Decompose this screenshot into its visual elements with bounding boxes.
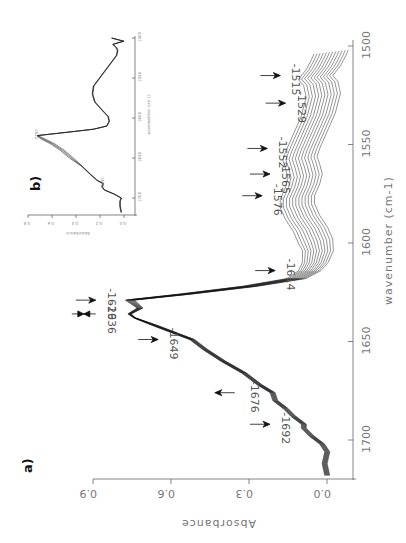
absorbance-tick-label: 0.3 — [236, 487, 254, 500]
inset-wavenumber-tick-label: 1500 — [137, 31, 142, 42]
inset-absorbance-tick-label: 0.6 — [47, 221, 54, 226]
spectrum-line — [131, 51, 343, 476]
absorbance-tick-label: 0.6 — [158, 487, 176, 500]
inset-spectra-lines — [37, 38, 124, 212]
panel-b-inset: b) 17001650160015501500 0.00.20.40.60.8 … — [23, 31, 151, 236]
panel-b-label: b) — [28, 176, 43, 191]
spectrum-line — [131, 50, 348, 476]
spectrum-line — [131, 50, 345, 475]
peak-label: -1692 — [279, 412, 292, 444]
absorbance-ticks: 0.00.30.60.9 — [80, 479, 332, 500]
peak-label: -1629 — [105, 288, 118, 320]
wavenumber-tick-label: 1650 — [360, 327, 373, 355]
inset-wavenumber-axis-label: wavenumber (cm-1) — [146, 94, 151, 135]
inset-wavenumber-ticks: 17001650160015501500 — [132, 31, 142, 202]
inset-wavenumber-tick-label: 1650 — [137, 151, 142, 162]
wavenumber-axis-label: wavenumber (cm-1) — [382, 176, 395, 305]
peak-label: -1649 — [167, 328, 180, 360]
inset-peak-label: -1622 — [34, 128, 39, 140]
inset-wavenumber-tick-label: 1700 — [137, 191, 142, 202]
inset-spectrum-line — [38, 38, 124, 212]
inset-spectrum-line — [37, 38, 123, 212]
wavenumber-tick-label: 1700 — [360, 425, 373, 453]
peak-label: -1676 — [248, 381, 261, 413]
wavenumber-tick-label: 1600 — [360, 228, 373, 256]
panel-a-label: a) — [20, 458, 35, 473]
wavenumber-tick-label: 1500 — [360, 31, 373, 59]
inset-absorbance-tick-label: 0.4 — [71, 221, 78, 226]
inset-absorbance-tick-label: 0.2 — [95, 221, 102, 226]
peak-label: -1529 — [295, 91, 308, 123]
inset-absorbance-tick-label: 0.8 — [23, 221, 30, 226]
peak-annotations: -1692-1676-1649-1636-1629-1614-1576-1565… — [72, 64, 308, 445]
absorbance-tick-label: 0.9 — [80, 487, 98, 500]
figure: a) 17001650160015501500 0.00.30.60.9 wav… — [0, 0, 406, 543]
absorbance-tick-label: 0.0 — [314, 487, 332, 500]
arrowhead-icon — [84, 311, 90, 317]
spectra-lines — [125, 50, 348, 476]
inset-wavenumber-tick-label: 1600 — [137, 111, 142, 122]
arrowhead-icon — [78, 311, 84, 317]
peak-label: -1515 — [289, 64, 302, 96]
wavenumber-tick-label: 1550 — [360, 130, 373, 158]
inset-absorbance-axis-label: Absorbance — [66, 231, 90, 236]
inset-wavenumber-tick-label: 1550 — [137, 71, 142, 82]
absorbance-axis-label: Absorbance — [181, 517, 256, 530]
panel-a: a) 17001650160015501500 0.00.30.60.9 wav… — [20, 31, 395, 530]
peak-label: -1614 — [284, 259, 297, 291]
wavenumber-ticks: 17001650160015501500 — [348, 31, 373, 453]
peak-label: -1552 — [276, 136, 289, 168]
inset-absorbance-ticks: 0.00.20.40.60.8 — [23, 215, 126, 226]
inset-absorbance-tick-label: 0.0 — [119, 221, 126, 226]
inset-peak-label: -1682 — [100, 176, 105, 188]
